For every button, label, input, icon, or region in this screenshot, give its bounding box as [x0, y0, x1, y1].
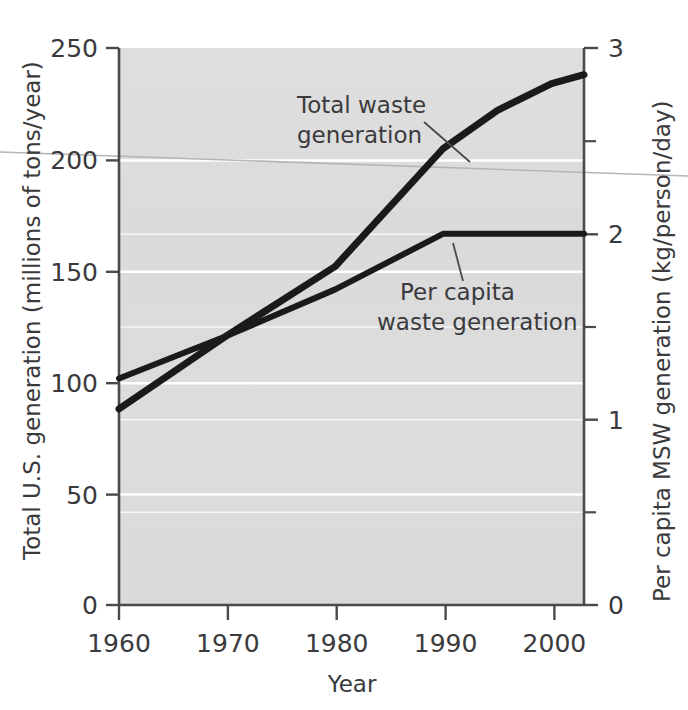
- ytick-label-100: 100: [50, 369, 98, 398]
- xtick-label-1980: 1980: [305, 629, 369, 658]
- ytick-label-50: 50: [66, 481, 98, 510]
- waste-generation-line-chart: 250 200 150 100 50 0 Total U.S. generati…: [0, 0, 688, 710]
- chart-figure: 250 200 150 100 50 0 Total U.S. generati…: [0, 0, 688, 710]
- x-axis-title: Year: [327, 671, 377, 697]
- left-axis-title: Total U.S. generation (millions of tons/…: [19, 61, 45, 561]
- xtick-label-1960: 1960: [87, 629, 151, 658]
- annotation-per-capita-line1: Per capita: [400, 279, 515, 305]
- xtick-label-1990: 1990: [414, 629, 478, 658]
- right-axis-title: Per capita MSW generation (kg/person/day…: [649, 100, 675, 602]
- y2tick-label-1: 1: [608, 406, 624, 435]
- y2tick-label-2: 2: [608, 220, 624, 249]
- xtick-label-1970: 1970: [196, 629, 260, 658]
- annotation-total-waste-line1: Total waste: [296, 92, 426, 118]
- ytick-label-250: 250: [50, 34, 98, 63]
- xtick-label-2000: 2000: [523, 629, 587, 658]
- y2tick-label-3: 3: [608, 34, 624, 63]
- ytick-label-150: 150: [50, 258, 98, 287]
- y2tick-label-0: 0: [608, 591, 624, 620]
- annotation-total-waste-line2: generation: [297, 122, 422, 148]
- ytick-label-0: 0: [82, 591, 98, 620]
- ytick-label-200: 200: [50, 146, 98, 175]
- annotation-per-capita-line2: waste generation: [377, 309, 577, 335]
